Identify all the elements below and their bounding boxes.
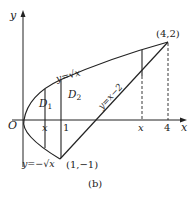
- region-d2-label: D2: [67, 88, 81, 102]
- figure-caption: (b): [88, 178, 102, 189]
- tick-label-1: 1: [63, 122, 69, 133]
- point-label-1-neg1: (1,−1): [66, 159, 98, 170]
- tick-label-x-d2: x: [138, 122, 144, 133]
- y-axis-arrow-icon: [21, 10, 26, 17]
- lower-curve-label: y=−√x: [21, 158, 55, 169]
- origin-label: O: [8, 119, 17, 132]
- y-axis-label: y: [9, 9, 17, 22]
- tick-label-x-d1: x: [42, 122, 48, 133]
- point-label-4-2: (4,2): [156, 28, 180, 39]
- x-axis-label: x: [181, 121, 188, 134]
- region-d1-label: D1: [38, 97, 52, 111]
- region-diagram: y x O x 1 x 4 y=√x y=−√x y=x−2 (1,−1) (4…: [0, 0, 195, 198]
- tick-label-4: 4: [164, 122, 170, 133]
- line-label: y=x−2: [95, 82, 124, 112]
- upper-curve-label: y=√x: [54, 66, 82, 84]
